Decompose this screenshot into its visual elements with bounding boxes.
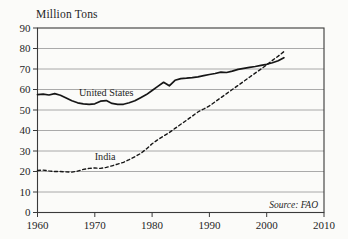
y-tick-label-40: 40 bbox=[20, 124, 32, 136]
x-tick-label-1970: 1970 bbox=[84, 219, 107, 231]
y-tick-label-70: 70 bbox=[20, 63, 32, 75]
plot-border bbox=[38, 28, 325, 213]
y-tick-label-10: 10 bbox=[20, 186, 32, 198]
y-tick-label-80: 80 bbox=[20, 42, 32, 54]
x-tick-label-1990: 1990 bbox=[198, 219, 221, 231]
y-tick-label-30: 30 bbox=[20, 145, 32, 157]
y-tick-label-0: 0 bbox=[25, 206, 31, 218]
india-series-line bbox=[38, 52, 284, 173]
y-tick-label-50: 50 bbox=[20, 104, 32, 116]
milk-production-chart-figure: Million Tons 010203040506070809019601970… bbox=[0, 0, 348, 239]
series-label-united-states: United States bbox=[79, 87, 134, 98]
x-tick-label-1960: 1960 bbox=[27, 219, 50, 231]
x-tick-label-1980: 1980 bbox=[141, 219, 164, 231]
y-tick-label-90: 90 bbox=[20, 22, 32, 34]
y-tick-label-20: 20 bbox=[20, 165, 32, 177]
x-tick-label-2000: 2000 bbox=[256, 219, 279, 231]
line-chart: 0102030405060708090196019701980199020002… bbox=[0, 0, 348, 239]
series-label-india: India bbox=[95, 151, 116, 162]
x-tick-label-2010: 2010 bbox=[313, 219, 336, 231]
source-note: Source: FAO bbox=[269, 200, 318, 210]
united-states-series-line bbox=[38, 58, 284, 105]
y-tick-label-60: 60 bbox=[20, 83, 32, 95]
